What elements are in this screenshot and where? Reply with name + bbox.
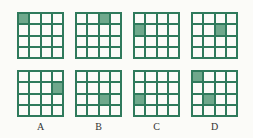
grid-cell	[168, 13, 179, 24]
shaded-cell	[99, 13, 110, 24]
grid-cell	[76, 13, 87, 24]
grid-cell	[145, 94, 156, 105]
grid-cell	[168, 71, 179, 82]
grid-cell	[87, 82, 98, 93]
grid-cell	[41, 47, 52, 58]
grid-cell	[87, 36, 98, 47]
grid-cell	[18, 105, 29, 116]
grid-cell	[29, 36, 40, 47]
grid-cell	[41, 82, 52, 93]
grid-cell	[215, 82, 226, 93]
grid-cell	[76, 105, 87, 116]
grid-cell	[168, 36, 179, 47]
grid-cell	[18, 82, 29, 93]
grid-cell	[29, 13, 40, 24]
grid-cell	[203, 36, 214, 47]
grid-cell	[76, 24, 87, 35]
grid-cell	[41, 24, 52, 35]
grid-cell	[99, 47, 110, 58]
grid-cell	[157, 47, 168, 58]
grid-cell	[215, 36, 226, 47]
option-label-d: D	[191, 121, 238, 132]
shaded-cell	[134, 94, 145, 105]
grid-cell	[110, 24, 121, 35]
shaded-cell	[134, 24, 145, 35]
grid-cell	[226, 24, 237, 35]
grid-cell	[18, 71, 29, 82]
grid-cell	[134, 47, 145, 58]
grid-cell	[99, 36, 110, 47]
grid-cell	[29, 94, 40, 105]
grid-cell	[29, 71, 40, 82]
grid-cell	[76, 71, 87, 82]
grid-cell	[52, 94, 63, 105]
grid-cell	[18, 94, 29, 105]
grid-cell	[134, 36, 145, 47]
grid-cell	[215, 105, 226, 116]
grid-cell	[145, 36, 156, 47]
grid-cell	[110, 36, 121, 47]
grid-cell	[76, 36, 87, 47]
grid-cell	[157, 71, 168, 82]
grid-cell	[52, 47, 63, 58]
grid-cell	[52, 71, 63, 82]
grid-cell	[168, 82, 179, 93]
shaded-cell	[215, 24, 226, 35]
grid-cell	[226, 47, 237, 58]
grid-cell	[157, 94, 168, 105]
grid-cell	[41, 105, 52, 116]
grid-cell	[76, 94, 87, 105]
grid-cell	[145, 71, 156, 82]
grid-cell	[110, 105, 121, 116]
grid-cell	[110, 47, 121, 58]
grid-cell	[192, 47, 203, 58]
grid-cell	[145, 24, 156, 35]
grid-cell	[145, 13, 156, 24]
shaded-cell	[52, 82, 63, 93]
grid-cell	[41, 71, 52, 82]
grid-cell	[203, 105, 214, 116]
grid-cell	[76, 47, 87, 58]
grid-cell	[192, 105, 203, 116]
grid-cell	[99, 105, 110, 116]
grid-cell	[87, 71, 98, 82]
shaded-cell	[192, 71, 203, 82]
grid-cell	[110, 71, 121, 82]
grid-cell	[226, 36, 237, 47]
grid-cell	[168, 105, 179, 116]
grid-cell	[203, 82, 214, 93]
grid-cell	[18, 24, 29, 35]
grid-cell	[215, 94, 226, 105]
grid-cell	[134, 105, 145, 116]
grid-cell	[226, 71, 237, 82]
option-label-a: A	[17, 121, 64, 132]
question-grid-2	[75, 12, 122, 59]
grid-cell	[52, 24, 63, 35]
grid-cell	[157, 105, 168, 116]
grid-cell	[157, 82, 168, 93]
grid-cell	[87, 94, 98, 105]
grid-cell	[18, 36, 29, 47]
option-grid-c	[133, 70, 180, 117]
grid-cell	[99, 71, 110, 82]
grid-cell	[134, 71, 145, 82]
grid-cell	[168, 47, 179, 58]
grid-cell	[87, 105, 98, 116]
grid-cell	[226, 13, 237, 24]
grid-cell	[41, 13, 52, 24]
grid-cell	[215, 71, 226, 82]
grid-cell	[192, 94, 203, 105]
shaded-cell	[203, 94, 214, 105]
grid-cell	[203, 24, 214, 35]
grid-cell	[215, 13, 226, 24]
grid-cell	[145, 82, 156, 93]
grid-cell	[76, 82, 87, 93]
grid-cell	[203, 47, 214, 58]
grid-cell	[192, 36, 203, 47]
grid-cell	[29, 24, 40, 35]
grid-cell	[41, 36, 52, 47]
grid-cell	[192, 24, 203, 35]
grid-cell	[157, 36, 168, 47]
shaded-cell	[99, 94, 110, 105]
option-grid-b	[75, 70, 122, 117]
